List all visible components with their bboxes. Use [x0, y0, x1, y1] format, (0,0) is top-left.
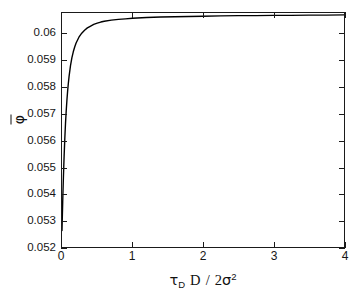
x-tick-mark-top	[345, 12, 346, 18]
y-tick-mark-right	[339, 141, 345, 142]
y-axis-label: φ	[11, 100, 26, 140]
y-tick-mark	[61, 194, 67, 195]
y-tick-mark	[61, 221, 67, 222]
plot-area	[61, 12, 345, 248]
y-tick-mark-right	[339, 87, 345, 88]
y-tick-mark-right	[339, 168, 345, 169]
y-tick-mark	[61, 33, 67, 34]
tau-glyph: τ	[169, 272, 178, 288]
y-tick-label: 0.058	[4, 81, 56, 93]
y-tick-mark-right	[339, 33, 345, 34]
y-tick-label: 0.06	[4, 27, 56, 39]
x-tick-mark-top	[203, 12, 204, 18]
x-tick-label: 4	[330, 250, 359, 262]
phi-glyph: φ	[11, 115, 27, 124]
x-tick-label: 2	[188, 250, 218, 262]
y-tick-label: 0.059	[4, 54, 56, 66]
y-tick-mark-right	[339, 114, 345, 115]
x-tick-mark	[274, 242, 275, 248]
x-tick-mark	[132, 242, 133, 248]
y-tick-mark	[61, 87, 67, 88]
x-tick-mark-top	[132, 12, 133, 18]
y-tick-mark-right	[339, 60, 345, 61]
x-axis-label: τD D / 2σ2	[61, 272, 345, 290]
overbar	[11, 115, 12, 124]
data-series-phi-bar	[62, 15, 344, 231]
sigma-glyph: σ	[222, 272, 231, 288]
y-tick-label: 0.055	[4, 162, 56, 174]
y-tick-label: 0.054	[4, 188, 56, 200]
x-tick-mark	[61, 242, 62, 248]
y-tick-mark	[61, 141, 67, 142]
tau-subscript: D	[178, 279, 185, 290]
y-tick-mark-right	[339, 194, 345, 195]
x-tick-label: 3	[259, 250, 289, 262]
x-tick-mark-top	[61, 12, 62, 18]
sigma-exponent: 2	[231, 271, 236, 282]
y-tick-mark	[61, 60, 67, 61]
x-tick-label: 1	[117, 250, 147, 262]
y-tick-label: 0.053	[4, 215, 56, 227]
diffusion-coefficient-glyph: D	[190, 272, 200, 288]
x-tick-mark	[345, 242, 346, 248]
factor-two: 2	[215, 272, 222, 288]
y-tick-mark	[61, 168, 67, 169]
x-tick-label: 0	[46, 250, 76, 262]
curve-svg	[62, 13, 344, 247]
y-tick-mark-right	[339, 221, 345, 222]
y-tick-mark	[61, 114, 67, 115]
figure-canvas: 0.0520.0530.0540.0550.0560.0570.0580.059…	[0, 0, 359, 308]
x-tick-mark	[203, 242, 204, 248]
phi-bar-symbol: φ	[11, 115, 26, 124]
x-tick-mark-top	[274, 12, 275, 18]
